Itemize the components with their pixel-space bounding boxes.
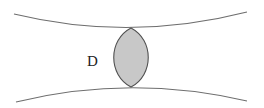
diagram-canvas: D [0,0,264,108]
upper-curve [14,12,247,28]
region-label-d: D [87,53,98,69]
lower-curve [16,88,247,102]
region-d-shaded-lens [114,28,149,87]
